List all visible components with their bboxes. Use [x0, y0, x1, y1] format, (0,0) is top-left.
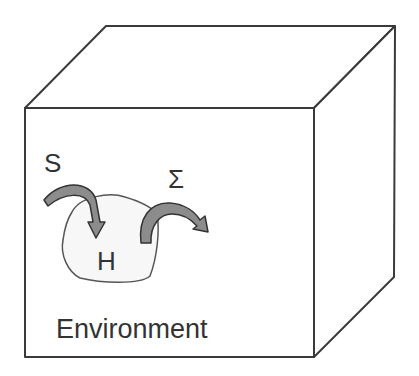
- label-sigma: Σ: [168, 164, 184, 194]
- label-environment: Environment: [56, 314, 208, 344]
- label-h: H: [97, 246, 116, 276]
- environment-cube-diagram: S H Σ Environment: [0, 0, 419, 376]
- label-s: S: [44, 148, 61, 178]
